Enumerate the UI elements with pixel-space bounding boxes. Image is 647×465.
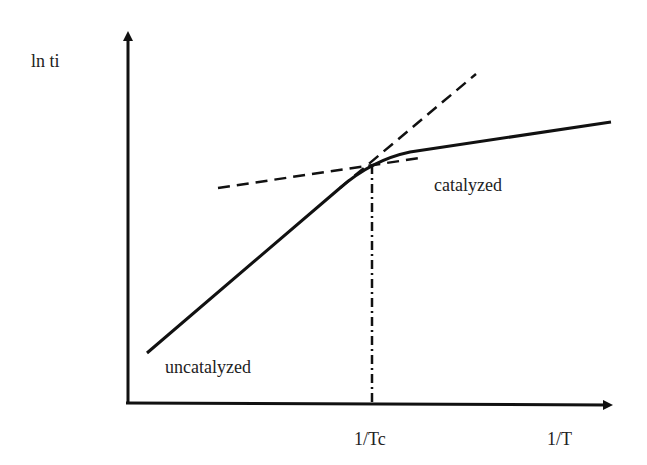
x-axis: [126, 403, 608, 405]
ignition-curve: [147, 122, 611, 353]
x-axis-label: 1/T: [547, 429, 572, 450]
catalyzed-label: catalyzed: [434, 175, 502, 196]
catalyzed-extrapolation: [218, 158, 420, 188]
diagram-canvas: [0, 0, 647, 465]
y-axis-label: ln ti: [31, 51, 60, 72]
uncatalyzed-label: uncatalyzed: [165, 357, 251, 378]
x-tick-label-tc: 1/Tc: [354, 429, 386, 450]
